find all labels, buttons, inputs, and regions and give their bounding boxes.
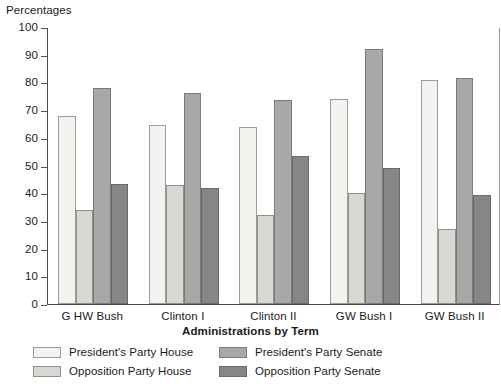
bar — [149, 125, 167, 304]
bar-group — [320, 28, 411, 304]
y-axis-tick-label: 40 — [4, 188, 38, 200]
bar — [76, 210, 94, 304]
bar — [438, 229, 456, 304]
y-axis-tick-label: 80 — [4, 77, 38, 89]
x-axis-group-label: G HW Bush — [47, 310, 138, 323]
y-axis-title: Percentages — [6, 3, 72, 17]
plot-area — [47, 28, 500, 305]
bar — [257, 215, 275, 304]
legend-swatch — [219, 347, 247, 358]
y-axis-tick — [41, 305, 47, 306]
x-axis-group-label: GW Bush II — [409, 310, 500, 323]
legend-swatch — [219, 366, 247, 377]
bar — [201, 188, 219, 304]
y-axis-tick-label: 30 — [4, 216, 38, 228]
legend-item: Opposition Party Senate — [219, 365, 381, 377]
legend-swatch — [33, 347, 61, 358]
bar — [184, 93, 202, 304]
bar-group — [139, 28, 230, 304]
y-axis-tick-label: 100 — [4, 22, 38, 34]
legend-label: President's Party House — [69, 346, 193, 358]
x-axis-title: Administrations by Term — [0, 325, 501, 337]
bar — [93, 88, 111, 304]
bar — [456, 78, 474, 304]
bar — [292, 156, 310, 304]
legend-label: Opposition Party Senate — [255, 365, 381, 377]
legend-label: Opposition Party House — [69, 365, 192, 377]
x-axis-group-label: Clinton I — [138, 310, 229, 323]
bar — [166, 185, 184, 304]
bar-group — [48, 28, 139, 304]
bar — [473, 195, 491, 304]
bar — [58, 116, 76, 304]
bars-container — [48, 28, 499, 304]
chart-legend: President's Party HousePresident's Party… — [33, 346, 473, 384]
y-axis-tick-label: 50 — [4, 161, 38, 173]
y-axis-tick-label: 0 — [4, 299, 38, 311]
y-axis-tick-label: 70 — [4, 105, 38, 117]
bar — [365, 49, 383, 304]
y-axis-tick-label: 10 — [4, 271, 38, 283]
y-axis-tick-label: 20 — [4, 244, 38, 256]
legend-swatch — [33, 366, 61, 377]
legend-label: President's Party Senate — [255, 346, 382, 358]
y-axis-tick-label: 90 — [4, 50, 38, 62]
legend-item: Opposition Party House — [33, 365, 192, 377]
legend-item: President's Party Senate — [219, 346, 382, 358]
x-axis-group-label: GW Bush I — [319, 310, 410, 323]
y-axis-tick-label: 60 — [4, 133, 38, 145]
legend-item: President's Party House — [33, 346, 193, 358]
bar — [330, 99, 348, 304]
bar — [111, 184, 129, 304]
bar-group — [410, 28, 501, 304]
bar-group — [229, 28, 320, 304]
x-axis-group-label: Clinton II — [228, 310, 319, 323]
bar — [348, 193, 366, 304]
bar — [274, 100, 292, 304]
bar — [421, 80, 439, 304]
bar — [239, 127, 257, 304]
bar — [383, 168, 401, 304]
bar-chart: Percentages 0102030405060708090100 G HW … — [0, 0, 501, 387]
